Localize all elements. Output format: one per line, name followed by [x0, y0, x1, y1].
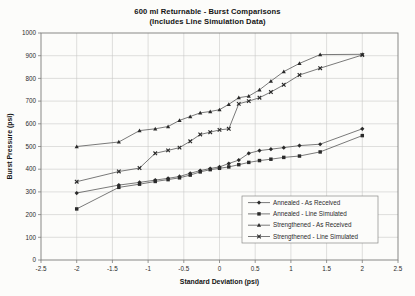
- triangle-marker-icon: [166, 124, 170, 128]
- x-tick-label: 0.5: [251, 265, 260, 272]
- chart-legend: Annealed - As ReceivedAnnealed - Line Si…: [242, 196, 378, 243]
- x-tick-label: -2.5: [36, 265, 47, 272]
- triangle-marker-icon: [247, 94, 251, 98]
- x-axis-title: Standard Deviation (psi): [180, 278, 259, 286]
- triangle-marker-icon: [282, 69, 286, 73]
- square-marker-icon: [227, 165, 230, 168]
- burst-pressure-chart: -2.5-2-1.5-1-0.500.511.522.5010020030040…: [0, 0, 415, 296]
- y-tick-label: 100: [25, 234, 36, 241]
- square-marker-icon: [247, 161, 250, 164]
- y-tick-label: 200: [25, 211, 36, 218]
- diamond-marker-icon: [282, 146, 286, 150]
- square-marker-icon: [269, 157, 272, 160]
- diamond-marker-icon: [257, 148, 261, 152]
- triangle-marker-icon: [217, 108, 221, 112]
- legend-label: Strengthened - As Received: [273, 221, 352, 229]
- x-tick-label: 2: [361, 265, 365, 272]
- diamond-marker-icon: [237, 158, 241, 162]
- y-tick-label: 1000: [22, 29, 37, 36]
- y-tick-label: 900: [25, 52, 36, 59]
- x-marker-icon: [188, 139, 192, 143]
- triangle-marker-icon: [257, 88, 261, 92]
- square-marker-icon: [237, 163, 240, 166]
- triangle-marker-icon: [227, 102, 231, 106]
- square-marker-icon: [166, 178, 169, 181]
- y-tick-label: 600: [25, 120, 36, 127]
- square-marker-icon: [208, 168, 211, 171]
- diamond-marker-icon: [318, 142, 322, 146]
- square-marker-icon: [178, 176, 181, 179]
- x-tick-label: -1: [145, 265, 151, 272]
- square-marker-icon: [117, 186, 120, 189]
- x-tick-label: 0: [218, 265, 222, 272]
- y-tick-label: 300: [25, 188, 36, 195]
- diamond-marker-icon: [247, 151, 251, 155]
- chart-page: 600 ml Returnable - Burst Comparisons (I…: [0, 0, 415, 296]
- square-marker-icon: [138, 182, 141, 185]
- square-marker-icon: [282, 156, 285, 159]
- square-marker-icon: [361, 134, 364, 137]
- square-marker-icon: [298, 154, 301, 157]
- x-marker-icon: [298, 73, 302, 77]
- y-tick-label: 0: [32, 256, 36, 263]
- x-tick-label: 1.5: [322, 265, 331, 272]
- x-tick-label: 2.5: [394, 265, 403, 272]
- square-marker-icon: [318, 150, 321, 153]
- x-marker-icon: [258, 96, 262, 100]
- triangle-marker-icon: [117, 140, 121, 144]
- legend-label: Strengthened - Line Simulated: [273, 233, 359, 241]
- x-tick-label: -0.5: [178, 265, 189, 272]
- y-tick-label: 800: [25, 75, 36, 82]
- legend-square-icon: [257, 212, 260, 215]
- square-marker-icon: [258, 159, 261, 162]
- diamond-marker-icon: [297, 143, 301, 147]
- diamond-marker-icon: [227, 161, 231, 165]
- legend-label: Annealed - As Received: [273, 199, 341, 206]
- y-tick-label: 400: [25, 165, 36, 172]
- diamond-marker-icon: [269, 147, 273, 151]
- x-tick-label: 1: [289, 265, 293, 272]
- square-marker-icon: [75, 207, 78, 210]
- square-marker-icon: [218, 167, 221, 170]
- square-marker-icon: [154, 180, 157, 183]
- square-marker-icon: [189, 173, 192, 176]
- y-tick-label: 500: [25, 143, 36, 150]
- x-marker-icon: [269, 90, 273, 94]
- x-tick-label: -2: [74, 265, 80, 272]
- x-tick-label: -1.5: [107, 265, 118, 272]
- diamond-marker-icon: [360, 127, 364, 131]
- square-marker-icon: [199, 170, 202, 173]
- y-tick-label: 700: [25, 97, 36, 104]
- legend-label: Annealed - Line Simulated: [273, 210, 347, 217]
- diamond-marker-icon: [75, 191, 79, 195]
- x-marker-icon: [282, 83, 286, 87]
- y-axis-title: Burst Pressure (psi): [6, 114, 14, 180]
